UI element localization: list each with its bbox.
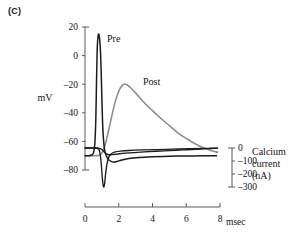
left-tick-label: –80 xyxy=(63,165,79,175)
right-axis-title-line2: current xyxy=(252,158,281,169)
left-tick-label: 20 xyxy=(69,22,79,32)
left-tick-label: 0 xyxy=(73,51,78,61)
bottom-tick-label: 0 xyxy=(83,214,88,224)
bottom-tick-label: 8 xyxy=(218,214,223,224)
left-axis: 200–20–40–60–80 mV xyxy=(38,22,90,175)
trace-post xyxy=(85,84,217,156)
series-label-post: Post xyxy=(143,76,160,87)
bottom-axis: 02468 msec xyxy=(83,203,246,227)
left-tick-label: –60 xyxy=(63,137,79,147)
right-axis-title-line3: (nA) xyxy=(252,170,271,182)
left-axis-title: mV xyxy=(38,92,54,103)
bottom-tick-label: 6 xyxy=(184,214,189,224)
bottom-tick-label: 4 xyxy=(150,214,155,224)
trace-pre xyxy=(85,34,217,162)
traces xyxy=(85,34,217,187)
left-tick-label: –40 xyxy=(63,108,79,118)
bottom-tick-label: 2 xyxy=(116,214,121,224)
right-axis-title-line1: Calcium xyxy=(252,146,286,157)
bottom-axis-ticks: 02468 xyxy=(83,203,223,224)
right-tick-label: 0 xyxy=(238,143,243,153)
figure-panel-c: (C) 200–20–40–60–80 mV 0–100–200–300 Cal… xyxy=(0,0,304,232)
plot-canvas: 200–20–40–60–80 mV 0–100–200–300 Calcium… xyxy=(0,0,304,232)
series-label-pre: Pre xyxy=(107,33,121,44)
right-tick-label: –300 xyxy=(237,182,257,192)
right-axis: 0–100–200–300 Calcium current (nA) xyxy=(228,143,286,192)
bottom-axis-unit: msec xyxy=(226,217,246,227)
left-tick-label: –20 xyxy=(63,80,79,90)
